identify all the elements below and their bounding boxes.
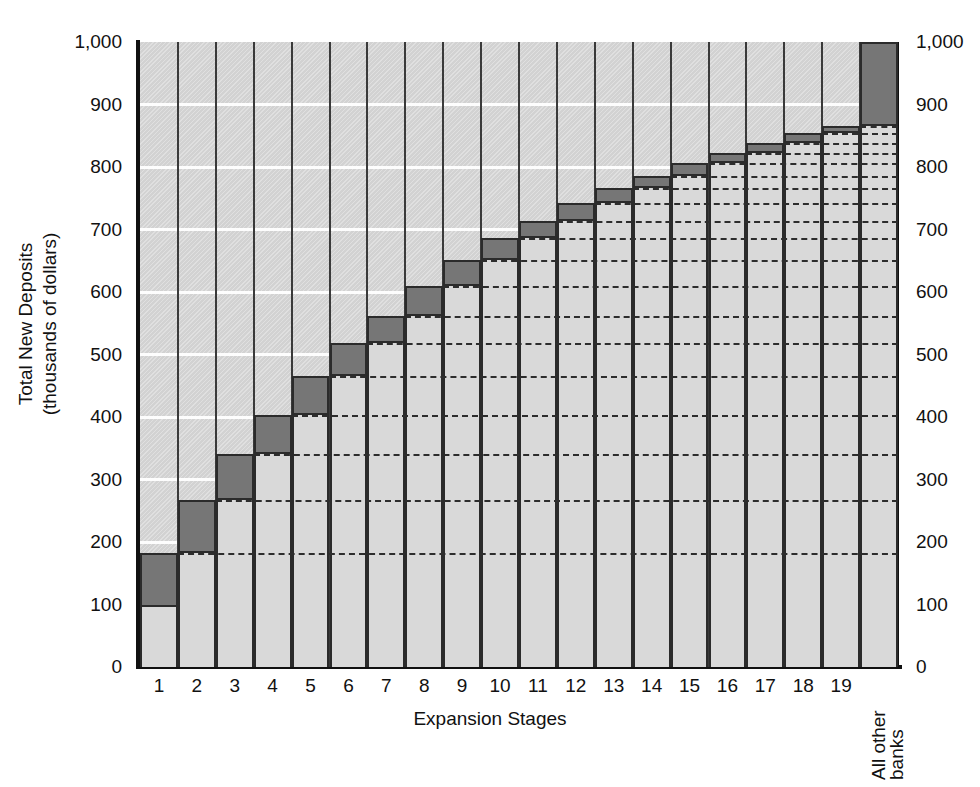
bar-carryover-segment: [405, 316, 443, 667]
level-dash-line: [443, 286, 898, 288]
bar-increment-segment: [595, 188, 633, 203]
bar-increment-segment: [443, 260, 481, 286]
x-tick-stage-4: 4: [253, 676, 293, 695]
bar-increment-segment: [519, 221, 557, 238]
x-tick-stage-3: 3: [215, 676, 255, 695]
level-dash-line: [595, 203, 898, 205]
bar-increment-segment: [784, 133, 822, 142]
bar-increment-segment: [292, 376, 330, 415]
level-dash-line: [633, 188, 898, 190]
level-dash-line: [784, 143, 898, 145]
level-dash-line: [254, 454, 898, 456]
bar-carryover-segment: [519, 238, 557, 667]
y-tick-right-0: 0: [916, 657, 927, 676]
x-tick-stage-11: 11: [518, 676, 558, 695]
bar-carryover-segment: [822, 133, 860, 667]
bar-carryover-segment: [140, 607, 178, 667]
y-tick-left-600: 600: [0, 282, 122, 301]
y-tick-left-400: 400: [0, 407, 122, 426]
level-dash-line: [178, 553, 898, 555]
bar-increment-segment: [216, 454, 254, 500]
bar-increment-segment: [860, 42, 898, 126]
y-tick-left-100: 100: [0, 595, 122, 614]
plot-area: [140, 42, 898, 667]
bar-increment-segment: [254, 415, 292, 454]
x-tick-stage-10: 10: [480, 676, 520, 695]
x-tick-stage-9: 9: [442, 676, 482, 695]
bar-increment-segment: [405, 286, 443, 317]
level-dash-line: [367, 343, 898, 345]
level-dash-line: [860, 126, 898, 128]
y-tick-right-300: 300: [916, 470, 948, 489]
bar-carryover-segment: [671, 176, 709, 667]
y-tick-right-100: 100: [916, 595, 948, 614]
bar-increment-segment: [633, 176, 671, 189]
x-tick-stage-17: 17: [745, 676, 785, 695]
y-tick-right-900: 900: [916, 95, 948, 114]
level-dash-line: [557, 221, 898, 223]
y-tick-left-500: 500: [0, 345, 122, 364]
level-dash-line: [671, 176, 898, 178]
bar-increment-segment: [367, 316, 405, 342]
level-dash-line: [330, 376, 899, 378]
bar-increment-segment: [140, 553, 178, 607]
bar-carryover-segment: [254, 454, 292, 667]
x-tick-stage-12: 12: [556, 676, 596, 695]
y-tick-left-900: 900: [0, 95, 122, 114]
y-tick-left-0: 0: [0, 657, 122, 676]
bar-increment-segment: [481, 238, 519, 260]
y-tick-right-800: 800: [916, 157, 948, 176]
x-tick-stage-19: 19: [821, 676, 861, 695]
x-tick-stage-16: 16: [707, 676, 747, 695]
bar-increment-segment: [709, 153, 747, 164]
bar-carryover-segment: [481, 260, 519, 668]
bar-increment-segment: [330, 343, 368, 376]
y-tick-right-400: 400: [916, 407, 948, 426]
bar-carryover-segment: [860, 126, 898, 667]
bar-carryover-segment: [746, 153, 784, 667]
x-tick-stage-8: 8: [404, 676, 444, 695]
y-tick-right-500: 500: [916, 345, 948, 364]
deposit-expansion-chart: Total New Deposits (thousands of dollars…: [0, 0, 980, 787]
bar-carryover-segment: [595, 203, 633, 667]
bar-carryover-segment: [367, 343, 405, 667]
y-tick-right-200: 200: [916, 532, 948, 551]
bar-carryover-segment: [178, 553, 216, 667]
level-dash-line: [709, 163, 899, 165]
level-dash-line: [216, 500, 898, 502]
x-tick-stage-7: 7: [366, 676, 406, 695]
bar-increment-segment: [822, 126, 860, 134]
x-tick-stage-15: 15: [670, 676, 710, 695]
level-dash-line: [292, 415, 898, 417]
level-dash-line: [746, 153, 898, 155]
bar-increment-segment: [557, 203, 595, 221]
x-axis-title: Expansion Stages: [0, 708, 980, 730]
x-tick-stage-5: 5: [291, 676, 331, 695]
x-tick-stage-14: 14: [632, 676, 672, 695]
x-tick-stage-2: 2: [177, 676, 217, 695]
level-dash-line: [519, 238, 898, 240]
bar-increment-segment: [178, 500, 216, 553]
y-tick-right-600: 600: [916, 282, 948, 301]
y-tick-right-1000: 1,000: [916, 32, 964, 51]
y-tick-right-700: 700: [916, 220, 948, 239]
x-tick-stage-18: 18: [783, 676, 823, 695]
y-tick-left-800: 800: [0, 157, 122, 176]
y-tick-left-200: 200: [0, 532, 122, 551]
level-dash-line: [481, 260, 898, 262]
x-tick-stage-1: 1: [139, 676, 179, 695]
bar-increment-segment: [746, 143, 784, 153]
y-tick-left-300: 300: [0, 470, 122, 489]
x-tick-stage-6: 6: [328, 676, 368, 695]
bar-carryover-segment: [216, 500, 254, 668]
bar-increment-segment: [671, 163, 709, 176]
y-tick-left-1000: 1,000: [0, 32, 122, 51]
bar-carryover-segment: [330, 376, 368, 667]
level-dash-line: [822, 133, 898, 135]
x-tick-all-other-banks-line2: banks: [886, 729, 908, 780]
level-dash-line: [405, 316, 898, 318]
y-tick-left-700: 700: [0, 220, 122, 239]
x-tick-stage-13: 13: [594, 676, 634, 695]
